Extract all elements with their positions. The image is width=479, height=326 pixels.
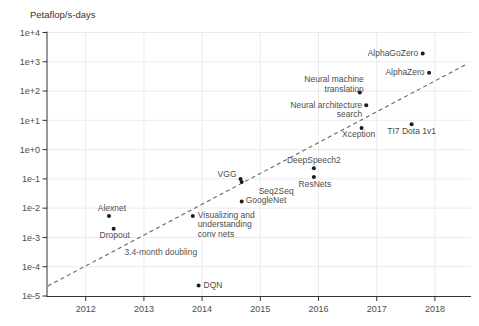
data-point [312,166,316,170]
data-point [312,175,316,179]
data-point [364,103,368,107]
data-point [240,199,244,203]
data-point [191,214,195,218]
data-point [410,122,414,126]
y-tick-label: 1e-2 [22,203,40,213]
y-tick-label: 1e-4 [22,262,40,272]
y-tick-label: 1e+4 [20,28,40,38]
ai-compute-scatter-chart: Petaflop/s-days 1e+41e+31e+21e+11e+01e-1… [0,0,479,326]
y-tick-label: 1e-3 [22,233,40,243]
trend-line [48,64,467,286]
data-point [197,283,201,287]
x-tick-label: 2016 [308,304,328,314]
data-point [427,71,431,75]
data-point [107,214,111,218]
y-tick-label: 1e-1 [22,174,40,184]
data-point [421,52,425,56]
x-tick-label: 2015 [250,304,270,314]
y-tick-label: 1e+1 [20,116,40,126]
y-tick-label: 1e-5 [22,291,40,301]
x-tick-label: 2018 [425,304,445,314]
data-point [360,126,364,130]
y-tick-label: 1e+0 [20,145,40,155]
y-tick-label: 1e+2 [20,86,40,96]
plot-canvas: 1e+41e+31e+21e+11e+01e-11e-21e-31e-41e-5… [0,0,479,326]
x-tick-label: 2017 [367,304,387,314]
data-point [112,227,116,231]
y-tick-label: 1e+3 [20,57,40,67]
x-tick-label: 2012 [76,304,96,314]
x-tick-label: 2014 [192,304,212,314]
data-point [240,180,244,184]
data-point [358,90,362,94]
x-tick-label: 2013 [134,304,154,314]
